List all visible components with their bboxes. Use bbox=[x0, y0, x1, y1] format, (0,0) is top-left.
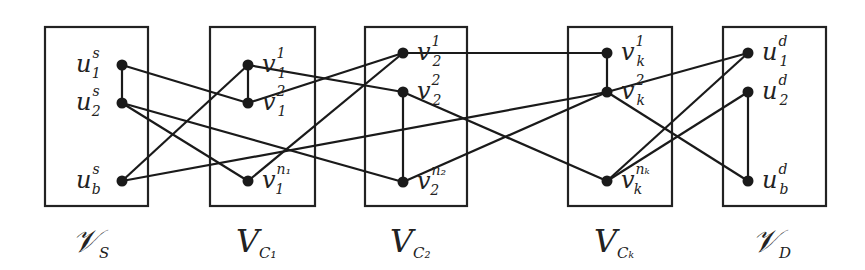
node-v21 bbox=[398, 48, 409, 59]
node-vkn bbox=[602, 176, 613, 187]
node-vk1 bbox=[602, 48, 613, 59]
node-u2d bbox=[743, 87, 754, 98]
node-u1d bbox=[743, 48, 754, 59]
node-u1s bbox=[117, 60, 128, 71]
node-v22 bbox=[398, 87, 409, 98]
node-u2s bbox=[117, 98, 128, 109]
layered-graph-diagram: us1us2usbv11v21vn₁1v12v22vn₂2v1kv2kvnₖku… bbox=[0, 0, 865, 270]
node-ubd bbox=[743, 176, 754, 187]
node-vk2 bbox=[602, 87, 613, 98]
node-ubs bbox=[117, 176, 128, 187]
node-v11 bbox=[243, 60, 254, 71]
node-v2n bbox=[398, 177, 409, 188]
node-v12 bbox=[243, 98, 254, 109]
node-v1n bbox=[243, 176, 254, 187]
